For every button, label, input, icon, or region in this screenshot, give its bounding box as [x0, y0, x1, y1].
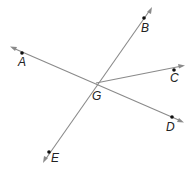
label-e: E: [51, 151, 60, 165]
line-be: [45, 10, 150, 160]
label-a: A: [17, 55, 26, 69]
arrowhead-a-icon: [10, 47, 17, 52]
point-d: [170, 115, 174, 119]
arrowhead-c-icon: [178, 64, 185, 69]
label-b: B: [141, 21, 149, 35]
arrowhead-d-icon: [177, 118, 184, 123]
geometry-diagram: A B C D E G: [0, 0, 192, 174]
label-g: G: [92, 89, 101, 103]
label-c: C: [170, 71, 179, 85]
label-d: D: [166, 120, 175, 134]
line-ad: [13, 48, 181, 121]
point-b: [142, 16, 146, 20]
